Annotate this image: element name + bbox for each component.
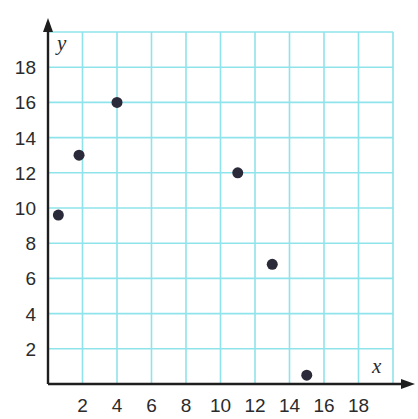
x-tick-label: 6 bbox=[146, 395, 157, 416]
y-tick-label: 10 bbox=[15, 198, 36, 219]
data-point bbox=[267, 259, 278, 270]
y-tick-label: 14 bbox=[15, 128, 37, 149]
x-tick-label: 12 bbox=[244, 395, 265, 416]
x-tick-label: 18 bbox=[348, 395, 369, 416]
y-tick-label: 12 bbox=[15, 163, 36, 184]
data-point bbox=[301, 370, 312, 381]
y-axis-arrow-icon bbox=[43, 18, 53, 32]
scatter-plot: 2468101214161824681012141618 x y bbox=[0, 0, 418, 419]
y-axis-label: y bbox=[55, 31, 67, 55]
x-axis-arrow-icon bbox=[401, 379, 415, 389]
y-tick-label: 8 bbox=[25, 233, 36, 254]
y-tick-label: 16 bbox=[15, 92, 36, 113]
y-tick-label: 4 bbox=[25, 304, 36, 325]
data-point bbox=[53, 210, 64, 221]
x-tick-label: 16 bbox=[313, 395, 334, 416]
x-tick-label: 14 bbox=[279, 395, 301, 416]
x-tick-label: 4 bbox=[112, 395, 123, 416]
y-tick-label: 18 bbox=[15, 57, 36, 78]
data-point bbox=[74, 150, 85, 161]
x-tick-label: 2 bbox=[77, 395, 88, 416]
tick-labels: 2468101214161824681012141618 bbox=[15, 57, 369, 416]
x-tick-label: 8 bbox=[181, 395, 192, 416]
x-axis-label: x bbox=[371, 354, 382, 378]
data-point bbox=[232, 167, 243, 178]
data-point bbox=[112, 97, 123, 108]
x-tick-label: 10 bbox=[210, 395, 231, 416]
y-tick-label: 2 bbox=[25, 339, 36, 360]
data-points bbox=[53, 97, 312, 381]
grid-lines bbox=[48, 32, 393, 384]
y-tick-label: 6 bbox=[25, 268, 36, 289]
